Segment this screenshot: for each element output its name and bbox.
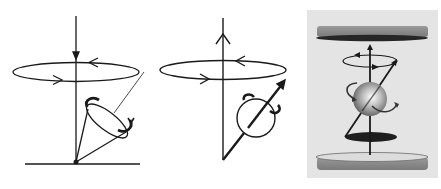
bottom-plate-top-surface [316, 153, 428, 162]
spinning-sphere-diagram [150, 0, 300, 189]
panel-precession-cone [0, 0, 150, 189]
cone-base-ellipse [82, 99, 132, 144]
cone-edge-right [76, 132, 126, 162]
orbit-arrow-right-icon [53, 76, 62, 85]
cone-to-orbit-line [114, 72, 144, 113]
cone-edge-left [76, 109, 88, 162]
field-cylinder-diagram [300, 0, 441, 189]
top-plate-underside [316, 35, 428, 41]
down-arrow-icon [73, 52, 79, 59]
panel-spinning-sphere [150, 0, 300, 189]
precession-cone-diagram [0, 0, 150, 189]
pivot-point [74, 160, 79, 165]
lower-orbit-disk [345, 132, 397, 142]
panel-field-cylinder [300, 0, 441, 189]
